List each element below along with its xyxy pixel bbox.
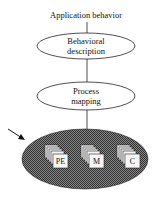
node-label-line2: description xyxy=(67,46,106,56)
node-label-line1: Process xyxy=(73,86,99,96)
hardware-platform: PE M C xyxy=(22,129,148,189)
application-behavior-label: Application behavior xyxy=(50,10,122,20)
node-label-line2: mapping xyxy=(71,96,101,106)
node-label-line1: Behavioral xyxy=(67,36,105,46)
stack-label: PE xyxy=(56,157,65,166)
stack-label: C xyxy=(130,157,135,166)
behavioral-description-node: Behavioral description xyxy=(37,33,135,59)
diagram-canvas: Application behavior Behavioral descript… xyxy=(0,0,168,201)
process-mapping-node: Process mapping xyxy=(37,82,135,110)
arrow-icon xyxy=(8,129,25,140)
stack-label: M xyxy=(93,157,100,166)
